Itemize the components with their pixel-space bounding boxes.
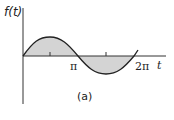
x-axis-label: t — [157, 60, 161, 71]
figure-caption: (a) — [77, 91, 92, 102]
y-axis-label: f(t) — [4, 6, 22, 18]
tick-label-pi: π — [70, 61, 77, 72]
tick-label-two-pi: 2π — [135, 61, 149, 72]
